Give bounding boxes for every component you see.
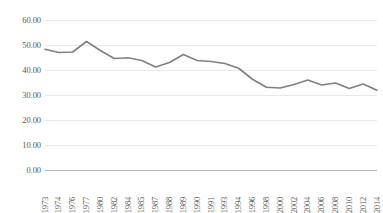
- y-axis-tick-label: 20.00: [0, 116, 41, 125]
- x-axis-tick-label: 1994: [234, 197, 243, 213]
- y-axis-tick-label: 50.00: [0, 41, 41, 50]
- x-axis-tick-label: 2012: [359, 197, 368, 213]
- x-axis-tick-label: 1976: [68, 197, 77, 213]
- x-axis-tick-label: 2004: [303, 197, 312, 213]
- y-axis-tick-label: 10.00: [0, 141, 41, 150]
- y-axis-tick-label: 0.00: [0, 166, 41, 175]
- series-line: [45, 42, 377, 91]
- y-axis-tick-labels: 60.0050.0040.0030.0020.0010.000.00: [0, 0, 41, 213]
- x-axis-tick-label: 1980: [96, 197, 105, 213]
- x-axis-tick-label: 1988: [165, 197, 174, 213]
- x-axis-tick-label: 2008: [331, 197, 340, 213]
- x-axis-tick-labels: 1973197419761977198019821984198519871988…: [45, 172, 377, 213]
- y-axis-tick-label: 40.00: [0, 66, 41, 75]
- plot-area: [45, 20, 377, 170]
- y-axis-tick-label: 60.00: [0, 16, 41, 25]
- x-axis-tick-label: 1985: [137, 197, 146, 213]
- x-axis-tick-label: 1990: [193, 197, 202, 213]
- x-axis-tick-label: 1977: [82, 197, 91, 213]
- x-axis-tick-label: 2006: [317, 197, 326, 213]
- x-axis-tick-label: 1987: [151, 197, 160, 213]
- x-axis-tick-label: 1989: [179, 197, 188, 213]
- x-axis-tick-label: 1984: [124, 197, 133, 213]
- x-axis-line: [45, 170, 377, 171]
- x-axis-tick-label: 1996: [248, 197, 257, 213]
- series-line-group: [45, 20, 377, 170]
- x-axis-tick-label: 1993: [220, 197, 229, 213]
- line-chart: 60.0050.0040.0030.0020.0010.000.00 19731…: [0, 0, 383, 213]
- x-axis-tick-label: 2000: [276, 197, 285, 213]
- x-axis-tick-label: 1974: [54, 197, 63, 213]
- x-axis-tick-label: 2002: [290, 197, 299, 213]
- y-axis-tick-label: 30.00: [0, 91, 41, 100]
- x-axis-tick-label: 1998: [262, 197, 271, 213]
- x-axis-tick-label: 2010: [345, 197, 354, 213]
- x-axis-tick-label: 1982: [110, 197, 119, 213]
- x-axis-tick-label: 2014: [373, 197, 382, 213]
- x-axis-tick-label: 1991: [207, 197, 216, 213]
- x-axis-tick-label: 1973: [41, 197, 50, 213]
